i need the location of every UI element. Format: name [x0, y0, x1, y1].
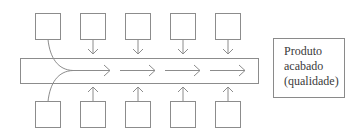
bottom-input-box-5: [216, 102, 241, 128]
top-input-box-4: [171, 14, 196, 40]
arrow-up-icon: [133, 87, 143, 102]
flow-arrow-icon: [120, 65, 155, 76]
output-label-line-3: (qualidade): [284, 74, 344, 89]
bottom-input-box-2: [81, 102, 106, 128]
bottom-input-box-3: [126, 102, 151, 128]
top-input-box-3: [126, 14, 151, 40]
bottom-input-box-1: [36, 102, 61, 128]
top-input-box-1: [36, 14, 61, 40]
arrow-up-icon: [223, 87, 233, 102]
top-input-box-5: [216, 14, 241, 40]
finished-product-box: Produto acabado (qualidade): [273, 38, 345, 98]
top-input-box-2: [81, 14, 106, 40]
output-label-line-1: Produto: [284, 44, 344, 59]
merge-curve-bottom: [48, 71, 73, 102]
flow-arrow-icon: [165, 65, 200, 76]
arrow-down-icon: [88, 40, 98, 55]
output-label-line-2: acabado: [284, 59, 344, 74]
bottom-input-box-4: [171, 102, 196, 128]
arrow-down-icon: [178, 40, 188, 55]
arrow-down-icon: [133, 40, 143, 55]
arrow-down-icon: [223, 40, 233, 55]
arrow-up-icon: [88, 87, 98, 102]
flow-arrow-icon: [210, 65, 245, 76]
merge-curve-top: [48, 40, 73, 71]
flow-arrow-icon: [73, 65, 110, 76]
arrow-up-icon: [178, 87, 188, 102]
